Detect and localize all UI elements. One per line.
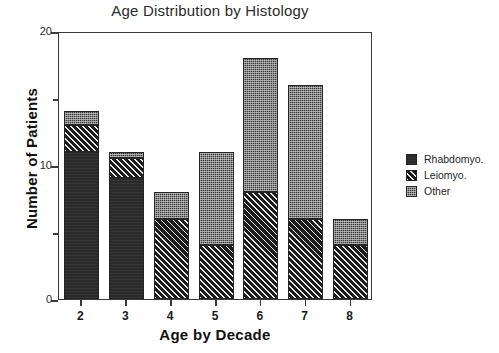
y-tick-mark <box>51 32 58 34</box>
legend-label: Other <box>424 186 450 197</box>
bar-segment[interactable] <box>288 219 323 299</box>
bar-segment[interactable] <box>64 152 99 299</box>
bar-group[interactable] <box>333 31 368 299</box>
bar-segment[interactable] <box>109 152 144 159</box>
legend-item[interactable]: Leiomyo. <box>406 168 498 182</box>
bar-group[interactable] <box>154 31 189 299</box>
bar-segment[interactable] <box>243 58 278 192</box>
legend-item[interactable]: Other <box>406 184 498 198</box>
bar-segment[interactable] <box>154 219 189 299</box>
legend-swatch-icon <box>406 154 417 165</box>
legend-label: Leiomyo. <box>424 170 467 181</box>
x-tick-mark <box>350 300 352 306</box>
x-tick-label: 2 <box>65 309 95 323</box>
bar-group[interactable] <box>199 31 234 299</box>
y-minor-tick-mark <box>53 233 58 235</box>
x-tick-mark <box>215 300 217 306</box>
x-tick-label: 4 <box>155 309 185 323</box>
chart-title: Age Distribution by Histology <box>60 2 360 19</box>
bar-group[interactable] <box>288 31 323 299</box>
bar-segment[interactable] <box>333 245 368 299</box>
bar-segment[interactable] <box>64 125 99 152</box>
bar-segment[interactable] <box>199 245 234 299</box>
x-tick-label: 5 <box>200 309 230 323</box>
chart-legend: Rhabdomyo.Leiomyo.Other <box>406 152 498 200</box>
legend-swatch-icon <box>406 186 417 197</box>
bar-segment[interactable] <box>243 192 278 299</box>
bars-container <box>59 33 371 299</box>
x-tick-label: 8 <box>335 309 365 323</box>
x-tick-label: 3 <box>110 309 140 323</box>
bar-segment[interactable] <box>333 219 368 246</box>
x-tick-mark <box>170 300 172 306</box>
y-tick-label: 20 <box>26 26 52 37</box>
bar-segment[interactable] <box>288 85 323 219</box>
x-tick-mark <box>125 300 127 306</box>
bar-segment[interactable] <box>64 111 99 124</box>
bar-group[interactable] <box>109 31 144 299</box>
bar-group[interactable] <box>64 31 99 299</box>
x-tick-label: 7 <box>290 309 320 323</box>
x-tick-label: 6 <box>245 309 275 323</box>
x-tick-mark <box>80 300 82 306</box>
x-axis-title: Age by Decade <box>58 326 372 343</box>
legend-label: Rhabdomyo. <box>424 154 484 165</box>
bar-segment[interactable] <box>109 178 144 299</box>
legend-item[interactable]: Rhabdomyo. <box>406 152 498 166</box>
plot-area <box>58 32 372 300</box>
y-axis-title: Number of Patients <box>23 39 40 279</box>
y-tick-mark <box>51 300 58 302</box>
bar-segment[interactable] <box>199 152 234 246</box>
y-tick-label: 0 <box>26 294 52 305</box>
legend-swatch-icon <box>406 170 417 181</box>
x-tick-mark <box>305 300 307 306</box>
bar-segment[interactable] <box>154 192 189 219</box>
y-tick-mark <box>51 166 58 168</box>
x-tick-mark <box>260 300 262 306</box>
bar-group[interactable] <box>243 31 278 299</box>
y-minor-tick-mark <box>53 99 58 101</box>
bar-segment[interactable] <box>109 158 144 178</box>
